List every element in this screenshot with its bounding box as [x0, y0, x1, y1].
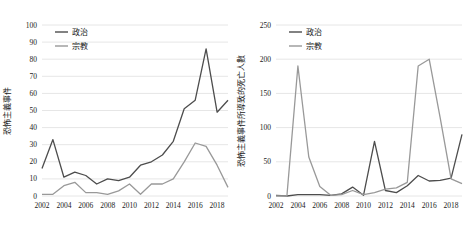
legend-label-1: 宗教: [72, 41, 88, 51]
y-tick-label-100: 100: [26, 21, 38, 30]
y-tick-label-20: 20: [30, 157, 38, 166]
x-tick-label-2010: 2010: [356, 201, 371, 210]
x-tick-label-2010: 2010: [122, 201, 137, 210]
y-tick-label-0: 0: [267, 192, 271, 201]
x-tick-label-2004: 2004: [290, 201, 305, 210]
y-tick-label-90: 90: [30, 38, 38, 47]
y-axis-label: 恐怖主義事件所導致的死亡人數: [236, 55, 246, 167]
x-tick-label-2018: 2018: [444, 201, 459, 210]
x-tick-label-2006: 2006: [78, 201, 93, 210]
y-tick-label-60: 60: [30, 89, 38, 98]
x-tick-label-2008: 2008: [100, 201, 115, 210]
y-tick-label-150: 150: [260, 89, 272, 98]
x-tick-label-2014: 2014: [166, 201, 181, 210]
legend-label-0: 政治: [72, 27, 88, 37]
y-axis-label: 恐怖主義事件: [2, 87, 12, 135]
x-tick-label-2018: 2018: [210, 201, 225, 210]
y-tick-label-10: 10: [30, 174, 38, 183]
x-tick-label-2012: 2012: [144, 201, 159, 210]
x-tick-label-2016: 2016: [188, 201, 203, 210]
chart-terror-deaths: 0501001502002502002200420062008201020122…: [234, 0, 468, 227]
legend-label-1: 宗教: [306, 41, 322, 51]
y-tick-label-250: 250: [260, 21, 272, 30]
y-tick-label-40: 40: [30, 123, 38, 132]
x-tick-label-2002: 2002: [35, 201, 50, 210]
x-tick-label-2004: 2004: [56, 201, 71, 210]
series-line-0: [276, 134, 462, 196]
x-tick-label-2014: 2014: [400, 201, 415, 210]
x-tick-label-2016: 2016: [422, 201, 437, 210]
x-tick-label-2006: 2006: [312, 201, 327, 210]
y-tick-label-70: 70: [30, 72, 38, 81]
y-tick-label-50: 50: [30, 106, 38, 115]
dual-line-chart-figure: 0102030405060708090100200220042006200820…: [0, 0, 468, 227]
series-line-1: [42, 143, 228, 194]
y-tick-label-30: 30: [30, 140, 38, 149]
legend-label-0: 政治: [306, 27, 322, 37]
series-line-0: [42, 49, 228, 184]
terror-deaths-plot: 0501001502002502002200420062008201020122…: [234, 0, 468, 227]
terror-incidents-plot: 0102030405060708090100200220042006200820…: [0, 0, 234, 227]
x-tick-label-2012: 2012: [378, 201, 393, 210]
x-tick-label-2002: 2002: [269, 201, 284, 210]
y-tick-label-0: 0: [33, 192, 37, 201]
y-tick-label-200: 200: [260, 55, 272, 64]
chart-terror-incidents: 0102030405060708090100200220042006200820…: [0, 0, 234, 227]
y-tick-label-80: 80: [30, 55, 38, 64]
x-tick-label-2008: 2008: [334, 201, 349, 210]
y-tick-label-100: 100: [260, 123, 272, 132]
y-tick-label-50: 50: [264, 157, 272, 166]
